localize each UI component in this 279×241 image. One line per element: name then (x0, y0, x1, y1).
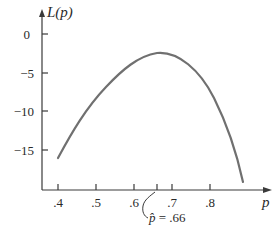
y-axis-title: L(p) (46, 4, 73, 21)
x-tick-label: .8 (205, 195, 215, 210)
y-axis-arrow-icon (39, 9, 45, 17)
chart: 0 −5 −10 −15 .4 .5 .6 .7 .8 L(p) p p̂ = … (0, 0, 279, 241)
x-tick-label: .4 (53, 195, 63, 210)
x-tick-label: .6 (129, 195, 139, 210)
likelihood-curve (58, 53, 243, 182)
x-ticks (58, 184, 210, 190)
x-axis-arrow-icon (263, 187, 272, 193)
x-axis-title: p (261, 194, 270, 210)
y-tick-label: −5 (20, 66, 34, 81)
y-tick-label: 0 (24, 27, 31, 42)
x-tick-label: .7 (167, 195, 177, 210)
phat-annotation: p̂ = .66 (148, 210, 186, 225)
y-ticks (42, 34, 48, 150)
y-tick-label: −15 (14, 143, 34, 158)
y-tick-label: −10 (14, 104, 34, 119)
x-tick-label: .5 (91, 195, 101, 210)
